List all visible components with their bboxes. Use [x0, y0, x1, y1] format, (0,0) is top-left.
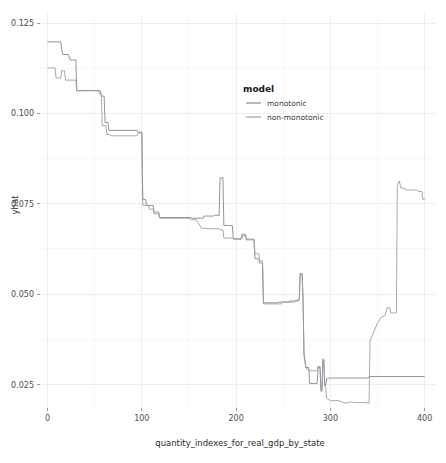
x-axis-title: quantity_indexes_for_real_gdp_by_state — [155, 438, 325, 448]
y-tick-label: 0.025 — [11, 381, 34, 390]
x-tick-label: 300 — [323, 414, 338, 423]
y-axis-title: yhat — [10, 195, 20, 215]
y-tick-label: 0.125 — [11, 19, 34, 28]
chart-figure: 0100200300400 0.0250.0500.0750.1000.125 … — [0, 0, 446, 463]
legend-label-monotonic[interactable]: monotonic — [267, 99, 307, 108]
legend-label-non-monotonic[interactable]: non-monotonic — [267, 113, 324, 122]
x-tick-label: 200 — [228, 414, 243, 423]
x-tick-label: 400 — [417, 414, 432, 423]
legend-title: model — [243, 84, 274, 94]
x-tick-label: 0 — [45, 414, 50, 423]
x-tick-label: 100 — [134, 414, 149, 423]
y-tick-label: 0.100 — [11, 109, 34, 118]
plot-canvas: 0100200300400 0.0250.0500.0750.1000.125 … — [0, 0, 446, 463]
y-tick-label: 0.050 — [11, 290, 34, 299]
